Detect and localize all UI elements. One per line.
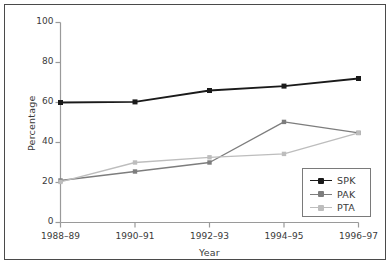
data-point-pak-2 bbox=[207, 160, 211, 164]
x-axis-title: Year bbox=[180, 247, 240, 258]
data-point-pak-1 bbox=[133, 169, 137, 173]
legend-label-spk: SPK bbox=[337, 175, 356, 186]
data-point-pta-0 bbox=[58, 180, 62, 184]
legend-marker-spk-icon bbox=[310, 176, 332, 185]
x-tick-label-0: 1988–89 bbox=[31, 231, 91, 241]
data-point-spk-2 bbox=[207, 88, 212, 93]
x-tick-label-4: 1996–97 bbox=[329, 231, 389, 241]
legend-dot-icon bbox=[318, 178, 324, 184]
x-tick-label-1: 1990–91 bbox=[105, 231, 165, 241]
legend-label-pta: PTA bbox=[337, 202, 355, 213]
legend-dot-icon bbox=[318, 191, 324, 197]
data-point-spk-0 bbox=[58, 100, 63, 105]
data-point-pta-3 bbox=[282, 152, 286, 156]
chart-figure: Percentage Year 020406080100 1988–891990… bbox=[0, 0, 392, 273]
legend-dot-icon bbox=[318, 205, 324, 211]
x-tick-label-2: 1992–93 bbox=[180, 231, 240, 241]
x-tick-label-3: 1994–95 bbox=[254, 231, 314, 241]
y-tick-label-40: 40 bbox=[20, 136, 54, 146]
legend-label-pak: PAK bbox=[337, 189, 355, 200]
y-tick-label-100: 100 bbox=[20, 16, 54, 26]
chart-legend: SPKPAKPTA bbox=[302, 168, 371, 217]
data-point-pak-3 bbox=[282, 120, 286, 124]
y-tick-label-80: 80 bbox=[20, 56, 54, 66]
data-point-spk-4 bbox=[356, 76, 361, 81]
legend-item-pta[interactable]: PTA bbox=[310, 202, 355, 213]
data-point-pta-1 bbox=[133, 160, 137, 164]
legend-item-spk[interactable]: SPK bbox=[310, 175, 356, 186]
y-tick-label-20: 20 bbox=[20, 176, 54, 186]
legend-marker-pta-icon bbox=[310, 203, 332, 212]
data-point-pta-2 bbox=[207, 155, 211, 159]
y-tick-label-0: 0 bbox=[20, 216, 54, 226]
data-point-pta-4 bbox=[356, 131, 360, 135]
y-tick-label-60: 60 bbox=[20, 96, 54, 106]
data-point-spk-3 bbox=[282, 84, 287, 89]
data-point-spk-1 bbox=[133, 99, 138, 104]
legend-marker-pak-icon bbox=[310, 190, 332, 199]
legend-item-pak[interactable]: PAK bbox=[310, 189, 355, 200]
